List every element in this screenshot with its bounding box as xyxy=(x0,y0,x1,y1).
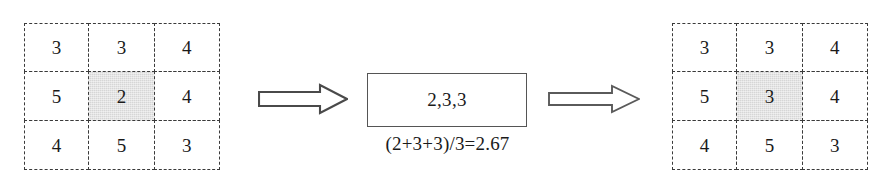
input-grid: 3 3 4 5 2 4 4 5 3 xyxy=(24,23,220,170)
cell-value: 3 xyxy=(700,38,710,57)
input-cell-r2c0: 4 xyxy=(24,120,89,170)
cell-value: 3 xyxy=(765,87,775,106)
output-grid: 3 3 4 5 3 4 4 5 3 xyxy=(672,23,868,170)
output-cell-r2c1: 5 xyxy=(736,120,802,170)
output-cell-r1c0: 5 xyxy=(672,71,737,121)
cell-value: 4 xyxy=(830,38,840,57)
output-cell-r2c0: 4 xyxy=(672,120,737,170)
cell-value: 5 xyxy=(52,87,62,106)
cell-value: 5 xyxy=(700,87,710,106)
cell-value: 2 xyxy=(117,87,127,106)
diagram-canvas: 3 3 4 5 2 4 4 5 3 2,3,3 (2+3+3)/3=2.67 3… xyxy=(0,0,885,181)
input-cell-r1c1-highlighted: 2 xyxy=(88,71,154,121)
cell-value: 4 xyxy=(52,136,62,155)
input-cell-r0c1: 3 xyxy=(88,23,154,72)
output-cell-r2c2: 3 xyxy=(802,120,868,170)
arrow-right-icon-2 xyxy=(548,83,640,115)
cell-value: 4 xyxy=(182,38,192,57)
cell-value: 5 xyxy=(117,136,127,155)
arrow-right-icon-1 xyxy=(258,83,348,115)
input-cell-r2c2: 3 xyxy=(154,120,220,170)
mean-computation-caption: (2+3+3)/3=2.67 xyxy=(360,133,535,155)
cell-value: 5 xyxy=(765,136,775,155)
output-cell-r1c1-highlighted: 3 xyxy=(736,71,802,121)
cell-value: 3 xyxy=(765,38,775,57)
cell-value: 4 xyxy=(182,87,192,106)
output-cell-r0c0: 3 xyxy=(672,23,737,72)
cell-value: 4 xyxy=(830,87,840,106)
input-cell-r2c1: 5 xyxy=(88,120,154,170)
neighborhood-values: 2,3,3 xyxy=(427,89,467,111)
neighborhood-values-box: 2,3,3 xyxy=(367,73,527,127)
output-cell-r0c2: 4 xyxy=(802,23,868,72)
input-cell-r0c0: 3 xyxy=(24,23,89,72)
cell-value: 3 xyxy=(52,38,62,57)
input-cell-r1c0: 5 xyxy=(24,71,89,121)
cell-value: 3 xyxy=(117,38,127,57)
input-cell-r0c2: 4 xyxy=(154,23,220,72)
cell-value: 3 xyxy=(182,136,192,155)
output-cell-r1c2: 4 xyxy=(802,71,868,121)
input-cell-r1c2: 4 xyxy=(154,71,220,121)
output-cell-r0c1: 3 xyxy=(736,23,802,72)
cell-value: 4 xyxy=(700,136,710,155)
cell-value: 3 xyxy=(830,136,840,155)
